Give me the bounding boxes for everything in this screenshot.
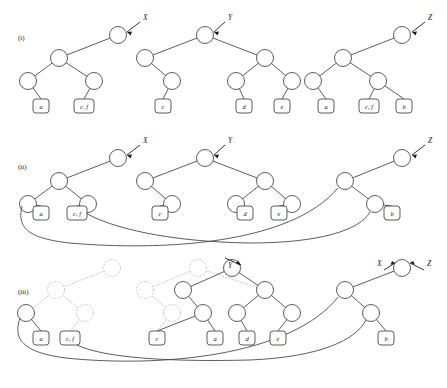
tree-xz-row-iii: X Z (337, 259, 433, 331)
tree-node[interactable] (367, 196, 384, 213)
tree-node[interactable] (363, 305, 380, 322)
leaf-box-item[interactable]: e (271, 206, 287, 220)
row-label-i: (i) (18, 34, 25, 42)
leaf-box-item[interactable]: c (152, 206, 168, 220)
pointer-label-y: Y (228, 13, 233, 22)
tree-node-root-z[interactable] (394, 150, 411, 167)
leaf-label: a (39, 335, 42, 342)
tree-node[interactable] (257, 173, 274, 190)
tree-node[interactable] (164, 73, 181, 90)
pointer-arrow-y (214, 145, 225, 155)
pointer-arrow-z (412, 22, 425, 32)
arrowhead-icon (412, 155, 417, 159)
pointer-arrow-z (410, 263, 424, 270)
tree-node-ghost (104, 260, 121, 277)
edge (59, 35, 118, 58)
tree-node[interactable] (284, 73, 301, 90)
leaf-label: a (213, 335, 216, 342)
tree-node-root-z[interactable] (394, 27, 411, 44)
row-ii: (ii) X (18, 136, 433, 246)
leaf-label: c, f (66, 335, 75, 342)
tree-node[interactable] (20, 73, 37, 90)
edge (205, 35, 265, 58)
tree-y-row-iii: Y (157, 258, 301, 331)
tree-node[interactable] (284, 305, 301, 322)
pointer-arrow-z (412, 145, 425, 155)
leaf-label: e (277, 335, 280, 342)
tree-node[interactable] (305, 73, 322, 90)
leaf-label: e (281, 103, 284, 110)
leaf-box-item[interactable]: a (33, 206, 49, 220)
leaf-label: c, f (365, 103, 374, 110)
leaf-box-item[interactable]: d (239, 331, 255, 345)
tree-node-ghost (137, 282, 154, 299)
leaf-box-item[interactable]: a (33, 99, 49, 113)
leaf-label: c (159, 210, 162, 217)
leaf-label: c, f (73, 210, 82, 217)
tree-node[interactable] (257, 50, 274, 67)
row-label-iii: (iii) (18, 288, 29, 296)
leaf-box-item[interactable]: b (384, 206, 400, 220)
tree-node[interactable] (370, 73, 387, 90)
tree-node[interactable] (175, 282, 192, 299)
edge-ghost (56, 268, 112, 290)
tree-node-root-y[interactable] (197, 150, 214, 167)
arrowhead-icon (214, 32, 219, 36)
leaf-box-item[interactable]: c, f (359, 99, 379, 113)
leaf-box-item[interactable]: c, f (74, 99, 94, 113)
leaf-box-item[interactable]: e (274, 99, 290, 113)
tree-node-ghost (190, 260, 207, 277)
leaf-box-item[interactable]: a (207, 331, 223, 345)
tree-node[interactable] (335, 50, 352, 67)
edge (205, 158, 265, 181)
tree-node[interactable] (228, 73, 245, 90)
leaf-box-item[interactable]: b (396, 99, 412, 113)
leaf-label: a (324, 103, 327, 110)
edge (59, 158, 118, 181)
ghost-tree-x-row-iii (26, 260, 121, 332)
tree-node[interactable] (229, 305, 246, 322)
tree-node-root-y[interactable] (197, 27, 214, 44)
tree-x-row-ii: X (20, 136, 149, 213)
arrowhead-icon (412, 32, 417, 36)
figure-page: (i) X (0, 0, 447, 388)
leaf-box-item[interactable]: d (236, 99, 252, 113)
tree-node-root-xz[interactable] (394, 260, 411, 277)
tree-node[interactable] (257, 282, 274, 299)
leaf-box-item[interactable]: a (33, 331, 49, 345)
pointer-arrow-y (214, 22, 225, 32)
tree-node[interactable] (51, 173, 68, 190)
pointer-label-z: Z (428, 13, 433, 22)
tree-node[interactable] (137, 50, 154, 67)
leaf-label: c (162, 103, 165, 110)
leaf-box-item[interactable]: a (318, 99, 334, 113)
tree-node[interactable] (337, 282, 354, 299)
arrowhead-icon (127, 155, 132, 159)
row-label-ii: (ii) (18, 163, 27, 171)
tree-node-ghost (48, 282, 65, 299)
row-iii: (iii) (18, 258, 433, 361)
edge (345, 158, 402, 181)
leaf-label: c (156, 335, 159, 342)
leaf-label: a (39, 103, 42, 110)
tree-node[interactable] (137, 173, 154, 190)
leaf-box-item[interactable]: c (155, 99, 171, 113)
tree-node[interactable] (195, 305, 212, 322)
tree-node[interactable] (86, 73, 103, 90)
leaf-group-row-i: a c, f c d e (33, 99, 412, 113)
leaf-box-item[interactable]: c (149, 331, 165, 345)
row-i: (i) X (18, 13, 433, 113)
tree-node-root-x[interactable] (110, 150, 127, 167)
leaf-box-item[interactable]: c, f (60, 331, 80, 345)
leaf-label: e (278, 210, 281, 217)
tree-node-ghost (77, 305, 94, 322)
leaf-box-item[interactable]: d (237, 206, 253, 220)
tree-node-root-x[interactable] (110, 27, 127, 44)
tree-y-row-i: Y (137, 13, 301, 99)
tree-node[interactable] (51, 50, 68, 67)
tree-node[interactable] (337, 173, 354, 190)
leaf-box-item[interactable]: e (270, 331, 286, 345)
solid-left-node-row-iii (18, 305, 42, 332)
leaf-box-item[interactable]: c, f (67, 206, 87, 220)
leaf-box-item[interactable]: b (378, 331, 394, 345)
